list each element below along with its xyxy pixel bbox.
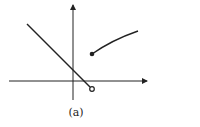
- increasing-curve: [92, 31, 138, 54]
- decreasing-line-segment: [27, 24, 90, 87]
- open-endpoint: [90, 87, 95, 92]
- figure-caption: (a): [62, 106, 90, 119]
- piecewise-graph: [0, 0, 200, 127]
- closed-endpoint: [90, 52, 95, 57]
